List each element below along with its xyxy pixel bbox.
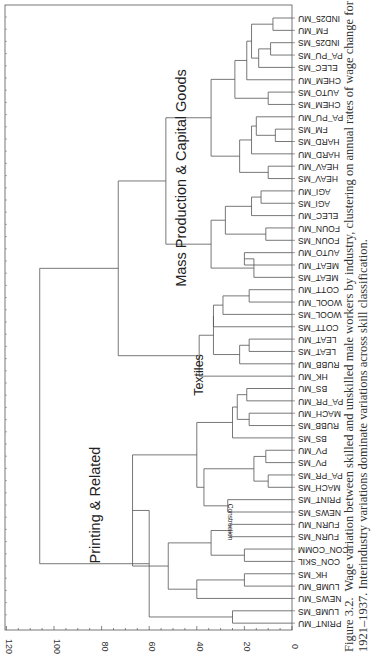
leaf-label: LUMB¯MU <box>298 582 340 592</box>
figure-number: Figure 3.2. <box>342 597 356 652</box>
leaf-label: HEAV¯MU <box>298 162 338 172</box>
leaf-label: COTT¯MS <box>298 323 339 333</box>
leaf-label: NEWS¯MS <box>298 508 341 518</box>
leaf-label: MACH¯MS <box>298 483 341 493</box>
leaf-label: PA¯PU¯MS <box>298 51 343 61</box>
leaf-label: MEAT¯MS <box>298 273 339 283</box>
leaf-label: CON¯COMM <box>298 545 349 555</box>
leaf-label: WOOL¯MS <box>298 310 342 320</box>
leaf-label: RUBB¯MS <box>298 421 339 431</box>
leaf-label: ELEC¯MS <box>298 63 338 73</box>
leaf-label: LEAT¯MS <box>298 347 336 357</box>
leaf-label: FOUN¯MS <box>298 236 340 246</box>
leaf-label: AGI¯MU <box>298 187 331 197</box>
plot-frame <box>5 5 292 630</box>
leaf-label: PA¯PR¯MS <box>298 471 343 481</box>
axis-tick-label: 80 <box>100 641 110 651</box>
leaf-label: AUTO¯MS <box>298 88 339 98</box>
leaf-label: LEAT¯MU <box>298 335 337 345</box>
leaf-label: HARD¯MS <box>298 137 340 147</box>
leaf-label: PV¯MS <box>298 458 327 468</box>
leaf-label: FURN¯MU <box>298 520 340 530</box>
caption-line-1: Wage variation between skilled and unski… <box>342 1 356 591</box>
leaf-label: PRINT¯MS <box>298 495 341 505</box>
leaf-label: HK¯MS <box>298 570 328 580</box>
cluster-label: Construction <box>227 504 234 541</box>
axis-tick-label: 20 <box>242 641 252 651</box>
cluster-label: Printing & Related <box>87 447 103 564</box>
leaf-label: WOOL¯MU <box>298 298 342 308</box>
dendrogram-chart: 020406080100120IND25¯MUFM¯MUIND25¯MSPA¯P… <box>0 0 385 659</box>
leaf-label: CHEM¯MU <box>298 76 341 86</box>
caption-line-2: 1921–1937. Interindustry variations domi… <box>356 0 370 652</box>
axis-tick-label: 0 <box>290 644 300 649</box>
leaf-label: PA¯PR¯MU <box>298 397 343 407</box>
leaf-label: MEAT¯MU <box>298 261 339 271</box>
leaf-label: AUTO¯MU <box>298 248 339 258</box>
leaf-label: CON¯SKIL <box>298 557 340 567</box>
leaf-label: NEWS¯MU <box>298 594 341 604</box>
leaf-label: COTT¯MU <box>298 285 339 295</box>
leaf-label: IND25¯MS <box>298 38 340 48</box>
leaf-label: HARD¯MU <box>298 150 340 160</box>
axis-tick-label: 60 <box>147 641 157 651</box>
cluster-label: Textiles <box>192 354 206 396</box>
leaf-label: LUMB¯MS <box>298 607 339 617</box>
cluster-label: Mass Production & Capital Goods <box>173 69 189 287</box>
axis-tick-label: 100 <box>52 639 62 654</box>
figure-caption: Figure 3.2.Wage variation between skille… <box>342 0 370 652</box>
leaf-label: IND25¯MU <box>298 14 340 24</box>
leaf-label: PA¯PU¯MU <box>298 113 343 123</box>
axis-tick-label: 40 <box>195 641 205 651</box>
leaf-label: CHEM¯MS <box>298 100 341 110</box>
leaf-label: FURN¯MS <box>298 532 339 542</box>
leaf-label: AGI¯MS <box>298 199 330 209</box>
leaf-label: HK¯MU <box>298 372 328 382</box>
leaf-label: PRINT¯MU <box>298 619 341 629</box>
leaf-label: FM¯MS <box>298 125 328 135</box>
leaf-label: BS¯MS <box>298 434 327 444</box>
leaf-label: MACH¯MU <box>298 409 341 419</box>
axis-tick-label: 120 <box>4 639 14 654</box>
leaf-label: HEAV¯MS <box>298 174 338 184</box>
leaf-label: FOUN¯MU <box>298 224 340 234</box>
leaf-label: PV¯MU <box>298 446 327 456</box>
leaf-label: BS¯MU <box>298 384 327 394</box>
leaf-label: FM¯MU <box>298 26 328 36</box>
leaf-label: RUBB¯MU <box>298 360 340 370</box>
leaf-label: ELEC¯MU <box>298 211 338 221</box>
